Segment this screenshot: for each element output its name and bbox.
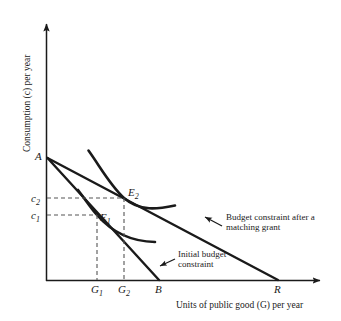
point-label-r: R	[274, 283, 281, 296]
y-tick-label-c2-sub: 2	[36, 198, 40, 207]
y-tick-label-c1-sub: 1	[36, 215, 40, 224]
point-label-e1-base: E	[100, 211, 107, 223]
annotation-matching-grant: Budget constraint after a matching grant	[226, 212, 315, 233]
x-tick-label-g1-sub: 1	[99, 289, 103, 298]
y-tick-label-c1: c1	[31, 209, 40, 224]
point-label-e2-sub: 2	[135, 192, 139, 201]
leader-line-initial-budget	[160, 259, 175, 266]
figure-container: Consumption (c) per year Units of public…	[0, 0, 341, 321]
point-label-e1-sub: 1	[107, 217, 111, 226]
annotation-initial-budget-line2: constraint	[178, 259, 226, 269]
y-tick-label-c2: c2	[31, 192, 40, 207]
annotation-matching-grant-line1: Budget constraint after a	[226, 212, 315, 222]
x-tick-label-g2: G2	[118, 283, 130, 298]
diagram-canvas	[0, 0, 341, 321]
annotation-initial-budget: Initial budget constraint	[178, 249, 226, 270]
point-label-e2-base: E	[128, 186, 135, 198]
point-label-a: A	[35, 150, 42, 163]
x-tick-label-g2-sub: 2	[126, 289, 130, 298]
annotation-initial-budget-line1: Initial budget	[178, 249, 226, 259]
point-label-e1: E1	[100, 211, 111, 226]
point-label-e2: E2	[128, 186, 139, 201]
leader-line-matching-grant	[205, 217, 222, 226]
x-tick-label-g1-base: G	[91, 283, 99, 295]
annotation-matching-grant-line2: matching grant	[226, 222, 315, 232]
x-tick-label-g1: G1	[91, 283, 103, 298]
x-tick-label-g2-base: G	[118, 283, 126, 295]
point-label-b: B	[155, 283, 162, 296]
y-axis-title: Consumption (c) per year	[22, 55, 33, 152]
x-axis-title: Units of public good (G) per year	[176, 300, 303, 311]
